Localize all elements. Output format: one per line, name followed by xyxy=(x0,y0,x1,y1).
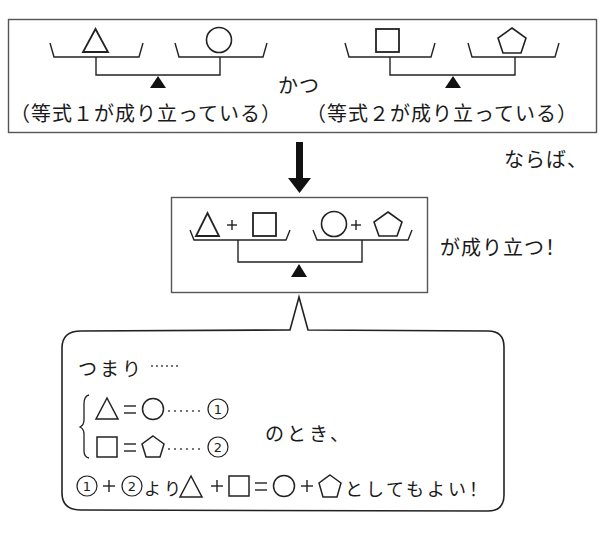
balance-scale-combined xyxy=(190,212,412,263)
circle-icon xyxy=(143,399,164,420)
and-connector: かつ xyxy=(278,70,320,99)
balance-scale-1 xyxy=(50,28,267,76)
pentagon-icon xyxy=(319,475,341,497)
result-panel-frame xyxy=(172,198,428,293)
svg-text:1: 1 xyxy=(214,402,222,417)
result-caption: が成り立つ！ xyxy=(440,232,566,261)
equation1-caption: （等式１が成り立っている） xyxy=(10,98,282,127)
pentagon-icon xyxy=(498,28,526,53)
fulcrum-icon xyxy=(291,264,307,277)
conclusion-lead: ならば、 xyxy=(504,144,588,173)
equation2-caption: （等式２が成り立っている） xyxy=(306,98,578,127)
triangle-icon xyxy=(83,29,108,52)
triangle-icon xyxy=(196,213,219,236)
balance-scale-2 xyxy=(345,28,559,75)
square-icon xyxy=(253,213,276,236)
conclusion-suffix: としてもよい！ xyxy=(345,475,490,501)
brace-icon xyxy=(80,395,89,458)
triangle-icon xyxy=(96,398,118,419)
circle-icon xyxy=(207,28,232,53)
pentagon-icon xyxy=(142,436,164,457)
circle-icon xyxy=(322,212,347,237)
circle-icon xyxy=(274,476,295,497)
square-icon xyxy=(376,29,399,52)
svg-text:1: 1 xyxy=(83,479,91,494)
bubble-intro: つまり xyxy=(78,354,144,381)
condition-suffix: のとき、 xyxy=(265,419,352,446)
square-icon xyxy=(229,476,249,496)
svg-text:2: 2 xyxy=(128,479,136,494)
svg-text:2: 2 xyxy=(214,440,222,455)
conclusion-yori: より xyxy=(144,475,184,500)
square-icon xyxy=(97,437,117,457)
fulcrum-icon xyxy=(445,76,461,88)
pentagon-icon xyxy=(374,212,402,236)
down-arrow-icon xyxy=(288,142,311,193)
fulcrum-icon xyxy=(150,76,166,88)
